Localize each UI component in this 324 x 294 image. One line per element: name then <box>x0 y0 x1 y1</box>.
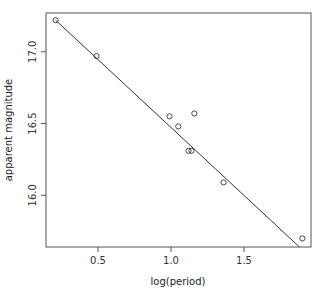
x-tick-label: 1.5 <box>236 255 252 266</box>
fit-line <box>56 20 300 247</box>
data-point <box>167 114 172 119</box>
y-tick-label: 16.0 <box>27 184 38 206</box>
y-tick-label: 16.5 <box>27 112 38 134</box>
data-point <box>192 111 197 116</box>
y-axis-label: apparent magnitude <box>3 79 14 182</box>
x-tick-label: 0.5 <box>90 255 106 266</box>
scatter-plot: 0.51.01.5 16.016.517.0 log(period) appar… <box>0 0 324 294</box>
x-axis-label: log(period) <box>151 276 206 287</box>
data-point <box>221 180 226 185</box>
data-points <box>53 18 305 241</box>
data-point <box>300 236 305 241</box>
data-point <box>176 124 181 129</box>
y-tick-label: 17.0 <box>27 41 38 63</box>
x-axis: 0.51.01.5 <box>90 247 252 266</box>
x-tick-label: 1.0 <box>163 255 179 266</box>
regression-line <box>56 20 300 247</box>
y-axis: 16.016.517.0 <box>27 41 46 207</box>
